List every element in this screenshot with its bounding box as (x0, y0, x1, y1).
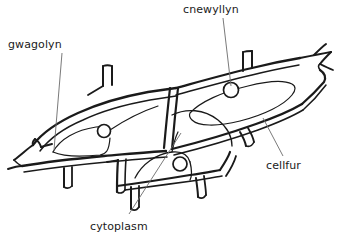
right-tip-join (319, 64, 321, 70)
left-cytoplasm-strand (110, 106, 158, 130)
left-tip-junction (14, 160, 22, 166)
cell-wall-group (8, 44, 333, 210)
label-cnewyllyn: cnewyllyn (183, 4, 239, 16)
leader-line-gwagolyn (54, 53, 62, 150)
right-cell-inner-lower-wall (174, 110, 303, 155)
diagram-canvas: gwagolyn cnewyllyn cellfur cytoplasm (0, 0, 341, 241)
right-tip-spur-right (320, 64, 333, 70)
bottom-cell-cytoplasm-strand (190, 162, 192, 180)
label-cytoplasm: cytoplasm (90, 221, 148, 233)
right-tip-lower-wall-inner (303, 85, 326, 110)
right-upper-spur-cap (243, 51, 252, 52)
right-cell-vacuole-boundary (189, 82, 295, 125)
lower-wall-spur-cap (64, 186, 72, 188)
left-y-junction-upper (41, 144, 52, 147)
middle-upper-spur-cap (103, 65, 112, 66)
bottom-spur-right-cap (198, 195, 206, 198)
bottom-cell-left-wall-cap (117, 190, 125, 193)
right-lower-spur-cap (246, 142, 254, 146)
nucleus-left-circle (98, 125, 111, 138)
nucleus-middle-circle (173, 157, 187, 171)
left-tip-wall-lower (8, 166, 22, 169)
left-tip-wall-upper (14, 145, 33, 160)
bottom-cell-right-wall-left (220, 152, 230, 170)
middle-upper-spur-base-left (88, 86, 103, 95)
bottom-cell-left-wall-outer (117, 160, 118, 192)
label-cellfur: cellfur (266, 160, 301, 172)
right-cell-outer-upper-wall (176, 58, 300, 88)
plant-cell-diagram (0, 0, 341, 241)
right-lower-spur-lower (248, 128, 254, 142)
label-gwagolyn: gwagolyn (8, 39, 62, 51)
